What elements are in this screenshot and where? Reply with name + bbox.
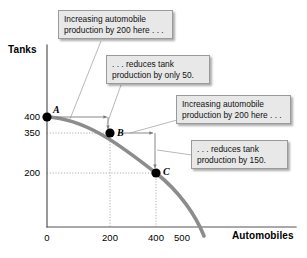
y-tick-350: 350 bbox=[14, 127, 40, 138]
callout-3-line-2: production by 200 here . . . bbox=[182, 110, 285, 121]
point-label-b: B bbox=[117, 127, 124, 138]
callout-reduces-tank-150: . . . reduces tank production by 150. bbox=[191, 140, 288, 169]
callout-2-line-2: production by only 50. bbox=[112, 70, 204, 81]
leader-line-2 bbox=[107, 85, 121, 124]
leader-line-4 bbox=[157, 150, 192, 155]
callout-3-line-1: Increasing automobile bbox=[182, 99, 285, 110]
callout-increasing-production-2: Increasing automobile production by 200 … bbox=[176, 95, 291, 124]
y-tick-200: 200 bbox=[14, 167, 40, 178]
callout-4-line-1: . . . reduces tank bbox=[197, 144, 282, 155]
point-label-a: A bbox=[53, 104, 60, 115]
y-axis-title: Tanks bbox=[8, 44, 37, 55]
leader-line-1 bbox=[70, 41, 101, 119]
data-points bbox=[42, 112, 160, 177]
x-axis-title: Automobiles bbox=[232, 230, 294, 241]
callout-increasing-production-1: Increasing automobile production by 200 … bbox=[58, 10, 173, 39]
ppf-curve bbox=[47, 117, 204, 236]
x-tick-400: 400 bbox=[143, 232, 169, 243]
point-label-c: C bbox=[163, 166, 170, 177]
callout-1-line-1: Increasing automobile bbox=[64, 14, 167, 25]
x-tick-200: 200 bbox=[97, 232, 123, 243]
point-a-marker bbox=[42, 112, 51, 121]
y-tick-400: 400 bbox=[14, 111, 40, 122]
ppf-figure: Tanks Automobiles 400 350 200 0 200 400 … bbox=[0, 0, 307, 258]
x-tick-500: 500 bbox=[169, 232, 195, 243]
callout-1-line-2: production by 200 here . . . bbox=[64, 25, 167, 36]
leader-line-3 bbox=[130, 120, 177, 133]
x-tick-0: 0 bbox=[34, 232, 60, 243]
callout-2-line-1: . . . reduces tank bbox=[112, 59, 204, 70]
point-c-marker bbox=[151, 168, 160, 177]
callout-4-line-2: production by 150. bbox=[197, 155, 282, 166]
guide-lines bbox=[47, 133, 156, 227]
point-b-marker bbox=[105, 128, 114, 137]
callout-reduces-tank-50: . . . reduces tank production by only 50… bbox=[106, 55, 210, 84]
